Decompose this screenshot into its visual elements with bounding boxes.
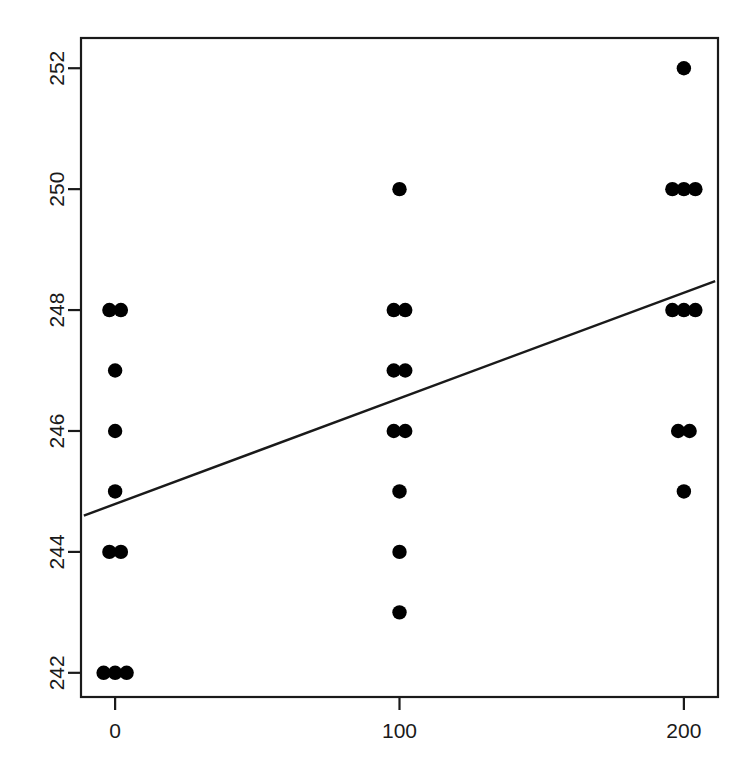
y-tick-label: 252: [46, 51, 69, 86]
data-point: [108, 484, 122, 498]
x-tick-label: 100: [382, 719, 417, 742]
plot-canvas: 0100200 242244246248250252: [0, 0, 754, 777]
x-tick-label: 200: [666, 719, 701, 742]
y-tick-label: 250: [46, 172, 69, 207]
scatter-plot-figure: 0100200 242244246248250252: [0, 0, 754, 777]
data-point: [392, 484, 406, 498]
data-point: [688, 303, 702, 317]
data-point: [108, 363, 122, 377]
data-point: [392, 605, 406, 619]
data-point: [682, 424, 696, 438]
y-tick-label: 244: [46, 534, 69, 569]
data-point: [398, 363, 412, 377]
y-tick-label: 246: [46, 413, 69, 448]
data-point: [114, 303, 128, 317]
data-point: [392, 182, 406, 196]
y-tick-label: 248: [46, 293, 69, 328]
figure-background: [0, 0, 754, 777]
x-tick-label: 0: [109, 719, 121, 742]
data-point: [677, 484, 691, 498]
data-point: [108, 424, 122, 438]
y-tick-label: 242: [46, 655, 69, 690]
data-point: [398, 303, 412, 317]
data-point: [114, 545, 128, 559]
data-point: [398, 424, 412, 438]
data-point: [688, 182, 702, 196]
data-point: [392, 545, 406, 559]
data-point: [119, 666, 133, 680]
data-point: [677, 61, 691, 75]
